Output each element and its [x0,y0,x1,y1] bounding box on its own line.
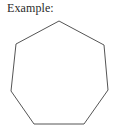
heptagon-shape [11,21,108,124]
polygon-canvas [0,0,116,128]
figure-container: Example: [0,0,116,128]
